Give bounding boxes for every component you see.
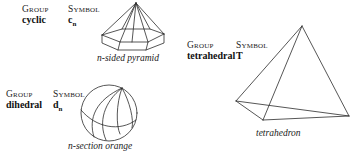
group-header-cyclic: Group bbox=[22, 4, 68, 14]
tetrahedron-edge-apex-bottom bbox=[263, 26, 302, 120]
symbol-subscript-dihedral: n bbox=[59, 105, 63, 113]
pyramid-base-edge-left bbox=[118, 42, 120, 50]
label-block-dihedral: Group Symbol dihedral dn bbox=[6, 89, 85, 113]
group-name-cyclic: cyclic bbox=[22, 14, 68, 25]
value-row-cyclic: cyclic cn bbox=[22, 14, 100, 28]
tetrahedron-figure bbox=[230, 24, 352, 126]
symbol-subscript-cyclic: n bbox=[72, 20, 76, 28]
n-sided-pyramid-figure bbox=[98, 2, 182, 52]
symbol-header-cyclic: Symbol bbox=[68, 4, 100, 14]
symbol-value-cyclic: cn bbox=[68, 14, 76, 28]
orange-equator-arc bbox=[81, 110, 136, 127]
tetrahedron-edge-bottom-right bbox=[263, 116, 349, 120]
symbol-value-dihedral: dn bbox=[53, 99, 62, 113]
group-name-dihedral: dihedral bbox=[6, 99, 53, 110]
n-section-orange-figure bbox=[78, 82, 140, 144]
pyramid-drawing bbox=[98, 2, 182, 52]
tetrahedron-edge-apex-left bbox=[236, 26, 302, 101]
symmetry-entry-dihedral: Group Symbol dihedral dn n-section orang… bbox=[0, 82, 190, 166]
header-row-cyclic: Group Symbol bbox=[22, 4, 100, 14]
header-row-dihedral: Group Symbol bbox=[6, 89, 85, 99]
group-name-tetrahedral: tetrahedral bbox=[187, 50, 236, 61]
orange-outline bbox=[81, 85, 137, 141]
caption-n-sided-pyramid: n-sided pyramid bbox=[97, 53, 159, 63]
caption-tetrahedron: tetrahedron bbox=[256, 128, 301, 138]
tetrahedron-edge-left-right bbox=[236, 101, 349, 116]
tetrahedron-edge-apex-right bbox=[302, 26, 349, 116]
orange-drawing bbox=[78, 82, 140, 144]
caption-n-section-orange: n-section orange bbox=[68, 141, 132, 151]
orange-segment-arc-4 bbox=[122, 88, 133, 128]
symmetry-entry-tetrahedral: Group Symbol tetrahedral T tetrahedron bbox=[186, 24, 355, 154]
tetrahedron-drawing bbox=[230, 24, 352, 126]
value-row-dihedral: dihedral dn bbox=[6, 99, 85, 113]
symmetry-entry-cyclic: Group Symbol cyclic cn n-sided p bbox=[0, 0, 190, 72]
group-header-tetrahedral: Group bbox=[187, 40, 236, 50]
label-block-cyclic: Group Symbol cyclic cn bbox=[22, 4, 100, 28]
pyramid-base-edge-right bbox=[146, 42, 148, 50]
group-header-dihedral: Group bbox=[6, 89, 53, 99]
